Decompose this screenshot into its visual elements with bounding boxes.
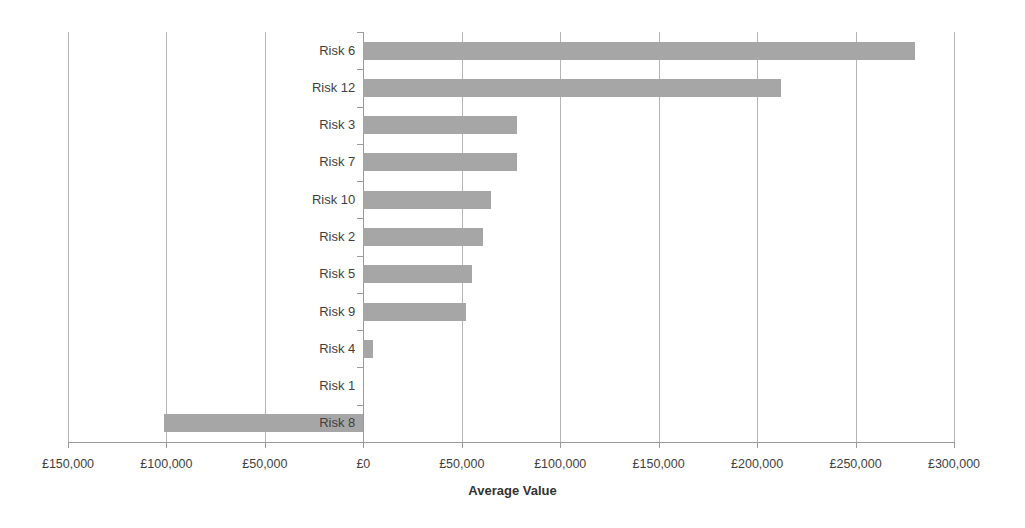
bar[interactable] <box>363 153 517 171</box>
category-label-risk-4: Risk 4 <box>319 342 355 355</box>
value-axis-tick-label: £150,000 <box>633 458 685 471</box>
bar-row <box>68 79 954 97</box>
bar-row <box>68 228 954 246</box>
category-tick <box>357 330 363 331</box>
bar-chart: £150,000£100,000£50,000£0£50,000£100,000… <box>0 0 1025 528</box>
category-tick <box>357 32 363 33</box>
value-axis-tick-label: £100,000 <box>140 458 192 471</box>
category-tick <box>357 256 363 257</box>
value-axis-tick <box>856 442 857 448</box>
category-label-risk-1: Risk 1 <box>319 379 355 392</box>
bar[interactable] <box>363 265 471 283</box>
value-axis-tick <box>265 442 266 448</box>
value-axis-tick <box>68 442 69 448</box>
category-label-risk-9: Risk 9 <box>319 305 355 318</box>
bar-row <box>68 42 954 60</box>
value-axis-tick-label: £300,000 <box>928 458 980 471</box>
bar[interactable] <box>363 340 373 358</box>
x-axis-title: Average Value <box>0 484 1025 497</box>
bar-row <box>68 303 954 321</box>
value-axis-tick-label: £50,000 <box>439 458 484 471</box>
category-label-risk-8: Risk 8 <box>319 416 355 429</box>
category-tick <box>357 107 363 108</box>
value-axis-tick-label: £200,000 <box>731 458 783 471</box>
bar-row <box>68 414 954 432</box>
bar[interactable] <box>363 116 517 134</box>
bar-row <box>68 191 954 209</box>
bar[interactable] <box>363 79 780 97</box>
category-label-risk-7: Risk 7 <box>319 155 355 168</box>
plot-area <box>68 32 954 442</box>
category-tick <box>357 405 363 406</box>
bar-row <box>68 116 954 134</box>
value-axis-tick <box>363 442 364 448</box>
bar-row <box>68 340 954 358</box>
value-axis-tick-label: £150,000 <box>42 458 94 471</box>
value-axis-tick <box>954 442 955 448</box>
category-label-risk-5: Risk 5 <box>319 267 355 280</box>
bar[interactable] <box>363 228 483 246</box>
value-axis-tick <box>462 442 463 448</box>
category-label-risk-10: Risk 10 <box>312 193 355 206</box>
value-axis-tick <box>659 442 660 448</box>
category-tick <box>357 367 363 368</box>
category-tick <box>357 218 363 219</box>
category-label-risk-3: Risk 3 <box>319 118 355 131</box>
value-axis-tick-label: £50,000 <box>242 458 287 471</box>
value-axis-tick-label: £0 <box>356 458 370 471</box>
category-label-risk-2: Risk 2 <box>319 230 355 243</box>
bar[interactable] <box>363 303 465 321</box>
value-axis-tick-label: £250,000 <box>829 458 881 471</box>
bar-row <box>68 265 954 283</box>
value-axis-tick <box>166 442 167 448</box>
category-tick <box>357 293 363 294</box>
bar[interactable] <box>363 191 491 209</box>
category-label-risk-12: Risk 12 <box>312 81 355 94</box>
category-tick <box>357 69 363 70</box>
gridline <box>954 32 955 442</box>
category-tick <box>357 181 363 182</box>
bar[interactable] <box>363 42 914 60</box>
category-label-risk-6: Risk 6 <box>319 44 355 57</box>
value-axis-tick <box>757 442 758 448</box>
value-axis-line <box>68 442 954 443</box>
category-tick <box>357 144 363 145</box>
bar-row <box>68 153 954 171</box>
value-axis-tick <box>560 442 561 448</box>
value-axis-tick-label: £100,000 <box>534 458 586 471</box>
